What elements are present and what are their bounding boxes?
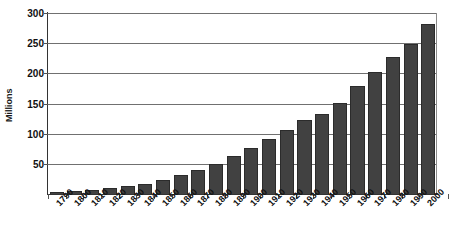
bar-slot <box>313 13 331 194</box>
bar <box>350 86 364 194</box>
y-tick-label: 150 <box>14 98 44 109</box>
bar <box>280 130 294 194</box>
bar-slot <box>296 13 314 194</box>
y-tick-label: 200 <box>14 68 44 79</box>
plot-area <box>48 13 437 194</box>
bar-slot <box>172 13 190 194</box>
x-label-slot: 1940 <box>313 199 331 234</box>
bar-slot <box>278 13 296 194</box>
bar <box>404 44 418 194</box>
x-label-slot: 1890 <box>225 199 243 234</box>
bar-slot <box>119 13 137 194</box>
bar <box>297 120 311 194</box>
y-tick-mark <box>44 13 48 14</box>
bar-series <box>48 13 437 194</box>
bar-slot <box>207 13 225 194</box>
bar <box>421 24 435 194</box>
bar-slot <box>154 13 172 194</box>
x-label-slot: 1820 <box>101 199 119 234</box>
bar <box>386 57 400 194</box>
bar-slot <box>260 13 278 194</box>
bar-slot <box>331 13 349 194</box>
x-label-slot: 1980 <box>384 199 402 234</box>
y-tick-mark <box>44 134 48 135</box>
x-label-slot: 1870 <box>190 199 208 234</box>
bar-slot <box>402 13 420 194</box>
bar-slot <box>190 13 208 194</box>
y-axis-tick-labels: 50100150200250300 <box>14 0 44 200</box>
bar-slot <box>419 13 437 194</box>
bar <box>315 114 329 194</box>
x-label-slot: 1860 <box>172 199 190 234</box>
x-label-slot: 1990 <box>402 199 420 234</box>
x-label-slot: 1950 <box>331 199 349 234</box>
y-tick-label: 300 <box>14 8 44 19</box>
x-label-slot: 1970 <box>366 199 384 234</box>
x-label-slot: 1960 <box>349 199 367 234</box>
bar-slot <box>136 13 154 194</box>
y-tick-label: 50 <box>14 158 44 169</box>
x-label-slot: 2000 <box>419 199 437 234</box>
y-tick-mark <box>44 164 48 165</box>
bar-slot <box>349 13 367 194</box>
y-tick-label: 250 <box>14 38 44 49</box>
y-tick-label: 100 <box>14 128 44 139</box>
x-label-slot: 1830 <box>119 199 137 234</box>
bar-slot <box>83 13 101 194</box>
bar-slot <box>48 13 66 194</box>
bar-slot <box>101 13 119 194</box>
x-label-slot: 1930 <box>296 199 314 234</box>
x-label-slot: 1910 <box>260 199 278 234</box>
x-axis-tick-labels: 1790180018101820183018401850186018701880… <box>48 199 437 234</box>
x-label-slot: 1800 <box>66 199 84 234</box>
x-label-slot: 1880 <box>207 199 225 234</box>
bar-chart: Millions 50100150200250300 1790180018101… <box>0 0 449 234</box>
bar <box>262 139 276 195</box>
bar-slot <box>66 13 84 194</box>
bar-slot <box>225 13 243 194</box>
x-label-slot: 1840 <box>136 199 154 234</box>
bar <box>368 72 382 194</box>
bar-slot <box>384 13 402 194</box>
y-tick-mark <box>44 73 48 74</box>
x-label-slot: 1810 <box>83 199 101 234</box>
y-tick-mark <box>44 43 48 44</box>
bar <box>333 103 347 194</box>
bar-slot <box>366 13 384 194</box>
y-tick-mark <box>44 104 48 105</box>
bar-slot <box>243 13 261 194</box>
x-label-slot: 1850 <box>154 199 172 234</box>
x-label-slot: 1790 <box>48 199 66 234</box>
x-label-slot: 1900 <box>243 199 261 234</box>
x-label-slot: 1920 <box>278 199 296 234</box>
